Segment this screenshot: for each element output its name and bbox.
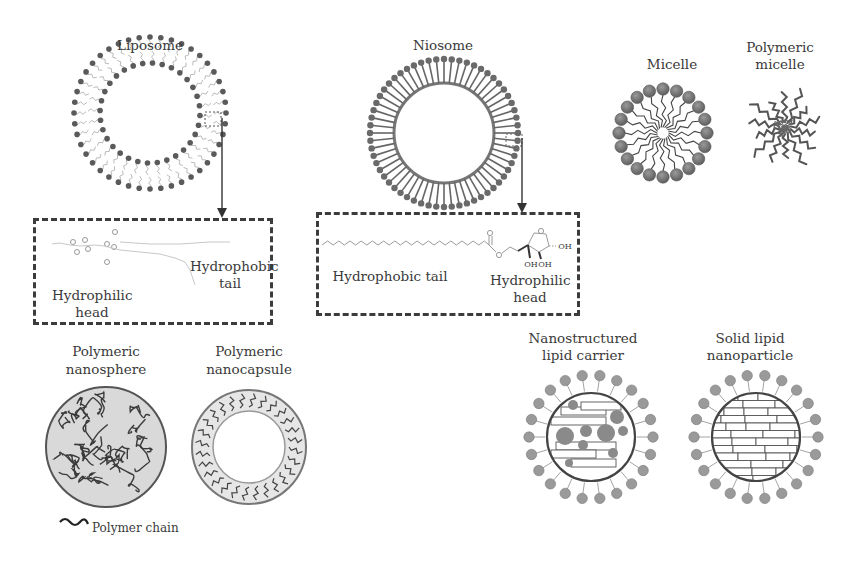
polymeric-nanocapsule-label-1: Polymeric	[209, 343, 289, 359]
polymer-chain-legend-icon	[60, 519, 88, 525]
liposome-hydrophobic-label-1: Hydrophobic	[190, 258, 270, 274]
niosome-hydrophobic-label: Hydrophobic tail	[330, 268, 450, 284]
sln-diagram	[689, 370, 829, 503]
niosome-label: Niosome	[403, 37, 483, 53]
niosome-diagram	[367, 56, 521, 210]
arrowhead-icon	[217, 208, 227, 218]
oh-label: OH	[537, 257, 553, 273]
micelle-diagram	[613, 83, 713, 183]
liposome-hydrophilic-label-2: head	[52, 304, 132, 320]
liposome-hydrophilic-label-1: Hydrophilic	[52, 287, 132, 303]
nlc-diagram	[524, 370, 658, 503]
niosome-hydrophilic-label-1: Hydrophilic	[490, 272, 570, 288]
sln-label-2: nanoparticle	[700, 347, 800, 363]
liposome-diagram	[71, 34, 229, 192]
sln-label-1: Solid lipid	[700, 330, 800, 346]
polymer-chain-legend-label: Polymer chain	[92, 520, 192, 536]
polymeric-micelle-label-2: micelle	[740, 56, 820, 72]
polymeric-nanosphere-diagram	[46, 387, 166, 507]
polymeric-nanosphere-label-1: Polymeric	[66, 343, 146, 359]
oh-label: OH	[557, 239, 573, 255]
polymeric-micelle-diagram	[749, 89, 819, 165]
liposome-label: Liposome	[110, 37, 190, 53]
nlc-label-1: Nanostructured	[528, 330, 638, 346]
polymeric-nanocapsule-label-2: nanocapsule	[199, 361, 299, 377]
polymeric-nanocapsule-diagram	[192, 390, 306, 504]
micelle-label: Micelle	[632, 56, 712, 72]
polymeric-nanosphere-label-2: nanosphere	[61, 361, 151, 377]
niosome-hydrophilic-label-2: head	[490, 289, 570, 305]
nlc-label-2: lipid carrier	[528, 347, 638, 363]
liposome-hydrophobic-label-2: tail	[190, 275, 270, 291]
polymeric-micelle-label-1: Polymeric	[740, 39, 820, 55]
